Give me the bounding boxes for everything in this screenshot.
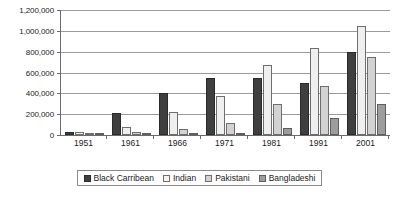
legend-item-indian[interactable]: Indian [163, 173, 196, 183]
y-axis-tick-label: 0 [50, 131, 54, 140]
y-axis-tick-mark [57, 93, 61, 94]
x-axis-tick-label: 1991 [295, 138, 342, 148]
plot-wrapper: 0200,000400,000600,000800,0001,000,0001,… [0, 0, 399, 168]
y-axis-tick-mark [57, 31, 61, 32]
bar [169, 112, 178, 135]
y-axis-tick-label: 600,000 [26, 68, 54, 77]
y-axis-tick-label: 400,000 [26, 89, 54, 98]
bars-layer [61, 10, 390, 135]
x-axis-tick-label: 1951 [60, 138, 107, 148]
y-axis-tick-label: 1,000,000 [19, 26, 54, 35]
legend-swatch-icon [163, 175, 170, 182]
y-axis-labels: 0200,000400,000600,000800,0001,000,0001,… [0, 0, 58, 135]
bar-group-1991 [296, 10, 343, 135]
x-axis-tick-label: 1966 [154, 138, 201, 148]
x-axis-tick-label: 1961 [107, 138, 154, 148]
bar-group-1966 [155, 10, 202, 135]
y-axis-tick-label: 200,000 [26, 110, 54, 119]
bar [357, 26, 366, 135]
y-axis-tick-mark [57, 10, 61, 11]
bar [159, 93, 168, 135]
plot-area [60, 10, 390, 136]
x-axis-tick-label: 2001 [342, 138, 389, 148]
bar [320, 86, 329, 135]
x-axis-tick-label: 1981 [248, 138, 295, 148]
legend-label: Indian [173, 173, 196, 183]
bar [310, 48, 319, 135]
legend-item-bangladeshi[interactable]: Bangladeshi [259, 173, 316, 183]
legend-swatch-icon [259, 175, 266, 182]
legend-swatch-icon [84, 175, 91, 182]
legend-swatch-icon [205, 175, 212, 182]
legend-item-pakistani[interactable]: Pakistani [205, 173, 250, 183]
bar [216, 96, 225, 135]
bar [347, 52, 356, 135]
bar [112, 113, 121, 135]
legend-label: Pakistani [215, 173, 250, 183]
chart-legend: Black CarribeanIndianPakistaniBangladesh… [77, 170, 323, 186]
bar-group-1951 [61, 10, 108, 135]
y-axis-tick-label: 800,000 [26, 47, 54, 56]
bar [330, 118, 339, 135]
y-axis-tick-mark [57, 52, 61, 53]
y-axis-tick-mark [57, 114, 61, 115]
bar-chart: 0200,000400,000600,000800,0001,000,0001,… [0, 0, 399, 202]
bar [206, 78, 215, 135]
bar [253, 78, 262, 135]
legend-label: Bangladeshi [269, 173, 316, 183]
bar [273, 104, 282, 135]
bar [283, 128, 292, 135]
bar-group-1981 [249, 10, 296, 135]
legend-item-black-carribean[interactable]: Black Carribean [84, 173, 154, 183]
bar [122, 127, 131, 135]
legend-label: Black Carribean [94, 173, 154, 183]
y-axis-tick-label: 1,200,000 [19, 6, 54, 15]
bar-group-2001 [343, 10, 390, 135]
bar-group-1971 [202, 10, 249, 135]
x-axis-labels: 1951196119661971198119912001 [60, 138, 389, 148]
bar [263, 65, 272, 135]
bar [377, 104, 386, 135]
bar [300, 83, 309, 135]
bar-group-1961 [108, 10, 155, 135]
bar [367, 57, 376, 135]
y-axis-tick-mark [57, 73, 61, 74]
bar [226, 123, 235, 135]
x-axis-tick-label: 1971 [201, 138, 248, 148]
